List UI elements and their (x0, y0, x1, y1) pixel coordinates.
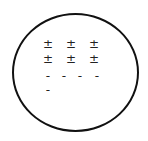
minus-symbol: - (75, 70, 85, 82)
minus-symbol: - (92, 70, 102, 82)
minus-symbol: - (43, 70, 53, 82)
plus-minus-symbol: ± (66, 38, 76, 50)
minus-symbol: - (59, 70, 69, 82)
plus-minus-symbol: ± (89, 38, 99, 50)
plus-minus-symbol: ± (43, 53, 53, 65)
minus-symbol: - (43, 84, 53, 96)
plus-minus-symbol: ± (89, 53, 99, 65)
plus-minus-symbol: ± (66, 53, 76, 65)
plus-minus-symbol: ± (43, 38, 53, 50)
